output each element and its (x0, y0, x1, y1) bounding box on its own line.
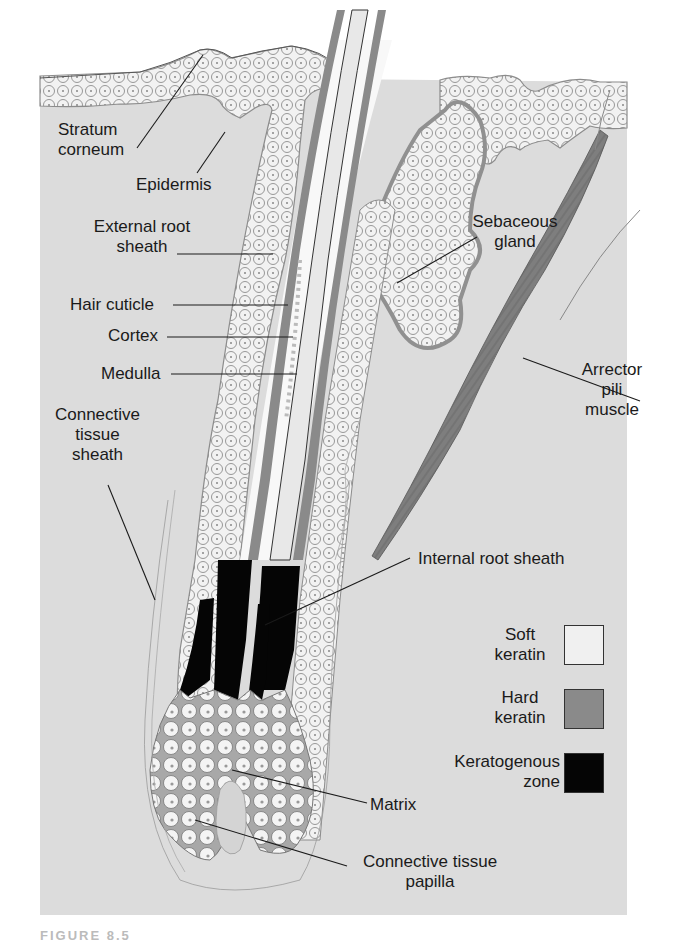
legend-swatch-keratogenous-zone (564, 753, 604, 793)
label-line: corneum (58, 140, 124, 160)
hair-follicle-diagram: Stratum corneum Epidermis External root … (0, 0, 681, 944)
label-connective-tissue-sheath: Connective tissue sheath (40, 405, 155, 465)
label-line: Stratum (58, 120, 124, 140)
label-line: Soft (480, 625, 560, 645)
label-line: gland (465, 232, 565, 252)
label-hair-cuticle: Hair cuticle (70, 295, 154, 315)
label-line: muscle (562, 400, 662, 420)
label-cortex: Cortex (108, 326, 158, 346)
label-line: Hard (480, 688, 560, 708)
label-line: Sebaceous (465, 212, 565, 232)
label-line: keratin (480, 645, 560, 665)
connective-tissue-papilla (216, 781, 246, 854)
label-medulla: Medulla (101, 364, 161, 384)
label-internal-root-sheath: Internal root sheath (418, 549, 564, 569)
label-line: sheath (82, 237, 202, 257)
label-line: pili (562, 380, 662, 400)
label-matrix: Matrix (370, 795, 416, 815)
label-line: zone (420, 772, 560, 792)
label-line: papilla (345, 872, 515, 892)
label-line: sheath (40, 445, 155, 465)
figure-caption-partial: FIGURE 8.5 (40, 928, 131, 943)
label-line: Connective tissue (345, 852, 515, 872)
label-line: Connective (40, 405, 155, 425)
label-line: Arrector (562, 360, 662, 380)
label-line: tissue (40, 425, 155, 445)
label-line: External root (82, 217, 202, 237)
label-connective-tissue-papilla: Connective tissue papilla (345, 852, 515, 892)
legend-swatch-soft-keratin (564, 625, 604, 665)
label-epidermis: Epidermis (136, 175, 212, 195)
label-line: keratin (480, 708, 560, 728)
legend-label-keratogenous-zone: Keratogenous zone (420, 752, 560, 792)
label-sebaceous-gland: Sebaceous gland (465, 212, 565, 252)
label-line: Keratogenous (420, 752, 560, 772)
label-stratum-corneum: Stratum corneum (58, 120, 124, 160)
label-external-root-sheath: External root sheath (82, 217, 202, 257)
label-arrector-pili-muscle: Arrector pili muscle (562, 360, 662, 420)
legend-label-hard-keratin: Hard keratin (480, 688, 560, 728)
legend-label-soft-keratin: Soft keratin (480, 625, 560, 665)
legend-swatch-hard-keratin (564, 689, 604, 729)
